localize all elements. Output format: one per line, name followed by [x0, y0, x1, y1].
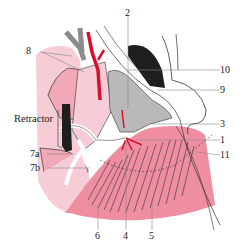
label-4: 4 — [123, 231, 128, 241]
label-11: 11 — [220, 150, 230, 160]
label-6: 6 — [95, 231, 100, 241]
gray-vessel-2 — [80, 28, 82, 52]
label-7b: 7b — [30, 163, 40, 173]
anatomical-diagram: 2 8 10 9 Retractor 3 1 11 7a 7b 6 4 5 — [0, 0, 242, 247]
nose-outline — [162, 36, 206, 134]
label-1: 1 — [220, 135, 225, 145]
label-9: 9 — [220, 85, 225, 95]
label-7a: 7a — [30, 149, 39, 159]
label-10: 10 — [220, 65, 230, 75]
label-retractor: Retractor — [14, 114, 53, 124]
label-2: 2 — [125, 8, 130, 18]
label-8: 8 — [26, 46, 31, 56]
artery-branch — [98, 50, 104, 60]
label-3: 3 — [220, 119, 225, 129]
label-5: 5 — [149, 231, 154, 241]
